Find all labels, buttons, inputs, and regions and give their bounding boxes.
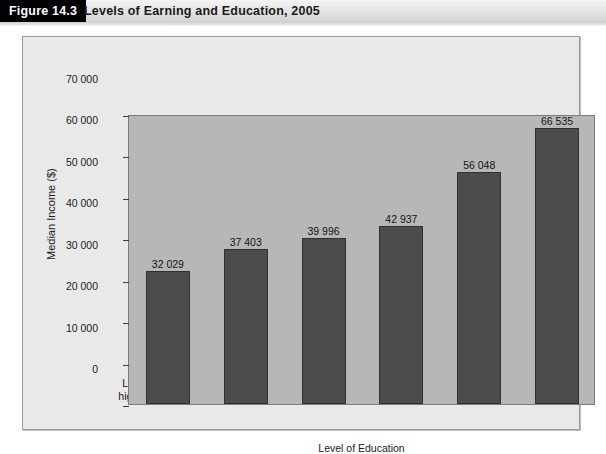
y-axis-tick-label: 60 000: [40, 114, 98, 126]
bar: [379, 226, 423, 404]
bar: [535, 128, 579, 404]
y-axis-tick-label: 0: [40, 363, 98, 375]
y-axis-tick-label: 20 000: [40, 280, 98, 292]
x-axis-title: Level of Education: [128, 442, 595, 454]
y-axis-tick-label: 30 000: [40, 239, 98, 251]
bar: [146, 271, 190, 404]
bar-value-label: 32 029: [152, 258, 184, 270]
y-axis-tick: [123, 157, 129, 158]
figure-header-bar: Figure 14.3 Levels of Earning and Educat…: [0, 0, 606, 22]
y-axis-tick: [123, 199, 129, 200]
y-axis-tick-label: 40 000: [40, 197, 98, 209]
plot-area-wrapper: 32 02937 40339 99642 93756 04866 535: [128, 115, 595, 405]
header-divider: [0, 22, 606, 26]
bar: [224, 249, 268, 404]
bar-value-label: 66 535: [541, 115, 573, 127]
figure-number-tag: Figure 14.3: [0, 0, 86, 22]
y-axis-tick: [123, 116, 129, 117]
y-axis-tick: [123, 365, 129, 366]
y-axis-tick-label: 50 000: [40, 156, 98, 168]
y-axis-tick: [123, 323, 129, 324]
y-axis-tick: [123, 240, 129, 241]
y-axis-tick: [123, 406, 129, 407]
figure-title: Levels of Earning and Education, 2005: [84, 0, 320, 22]
figure-panel: Median Income ($) 010 00020 00030 00040 …: [22, 36, 580, 430]
bar: [457, 172, 501, 404]
bar-value-label: 56 048: [463, 159, 495, 171]
bar-value-label: 39 996: [308, 225, 340, 237]
y-axis-tick-label: 70 000: [40, 73, 98, 85]
bar-value-label: 37 403: [230, 236, 262, 248]
plot-area: 32 02937 40339 99642 93756 04866 535: [128, 115, 595, 405]
y-axis-tick: [123, 282, 129, 283]
bar: [302, 238, 346, 404]
y-axis-tick-label: 10 000: [40, 322, 98, 334]
bar-value-label: 42 937: [385, 213, 417, 225]
